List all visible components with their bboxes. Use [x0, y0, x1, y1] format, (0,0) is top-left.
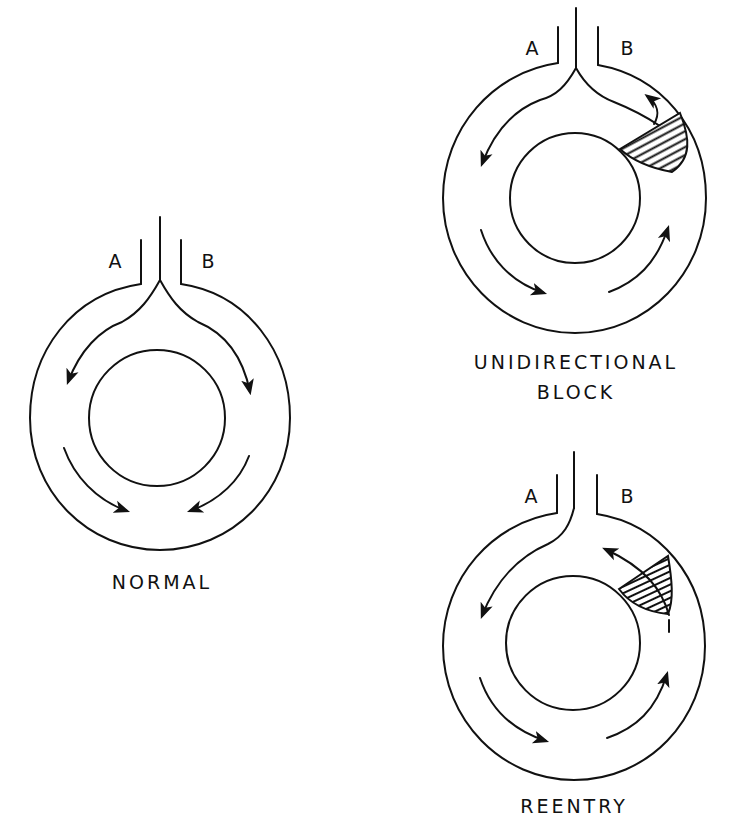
caption-normal: NORMAL — [112, 571, 212, 593]
branch-fiber-a — [482, 68, 576, 164]
outer-tissue-boundary — [443, 63, 706, 333]
branch-fiber-a — [482, 508, 574, 616]
branch-fiber-a — [68, 280, 160, 382]
inner-obstacle — [89, 350, 225, 486]
flow-arrow-lower-right — [609, 228, 668, 292]
flow-arrow-lower-right — [190, 456, 249, 511]
block-zone-hatched — [619, 556, 672, 614]
reentry-mechanism-diagram: A B NORMAL A B UNIDIRECTIONAL BLOCK — [0, 0, 740, 816]
flow-arrow-lower-left — [480, 678, 546, 741]
label-branch-b: B — [620, 485, 633, 507]
branch-fiber-b — [160, 280, 250, 392]
caption-unidirectional-line2: BLOCK — [537, 381, 616, 403]
label-branch-b: B — [620, 37, 633, 59]
caption-unidirectional-line1: UNIDIRECTIONAL — [474, 351, 678, 373]
inner-obstacle — [506, 576, 640, 710]
outer-tissue-boundary — [30, 284, 290, 550]
label-branch-a: A — [109, 250, 122, 272]
label-branch-b: B — [201, 250, 214, 272]
outer-tissue-boundary — [443, 513, 705, 780]
panel-reentry — [443, 452, 705, 780]
panel-unidirectional-block — [443, 8, 706, 333]
label-branch-a: A — [526, 37, 539, 59]
flow-arrow-lower-left — [64, 448, 127, 511]
label-branch-a: A — [525, 485, 538, 507]
flow-arrow-lower-right — [607, 674, 667, 738]
caption-reentry: REENTRY — [520, 795, 628, 816]
inner-obstacle — [510, 133, 640, 263]
flow-arrow-lower-left — [481, 230, 544, 293]
panel-normal — [30, 217, 290, 550]
